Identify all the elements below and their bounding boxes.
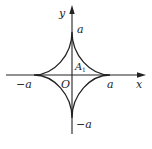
top-cusp-label: a (77, 23, 84, 36)
bottom-cusp-label: −a (76, 118, 92, 131)
x-axis-label: x (136, 78, 143, 91)
right-cusp-label: a (107, 78, 114, 91)
region-label: A (74, 61, 82, 72)
origin-label: O (61, 78, 70, 91)
astroid-diagram: y x O a −a −a a A 1 (0, 0, 152, 149)
y-axis-arrow-icon (69, 5, 74, 14)
y-axis-label: y (58, 7, 66, 20)
region-label-subscript: 1 (82, 66, 86, 73)
x-axis-arrow-icon (137, 72, 146, 77)
left-cusp-label: −a (16, 78, 32, 91)
